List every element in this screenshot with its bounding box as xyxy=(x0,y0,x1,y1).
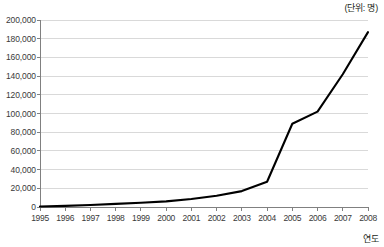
chart-container: (단위: 명) 020,00040,00060,00080,000100,000… xyxy=(0,0,384,247)
x-axis-tick-label: 2004 xyxy=(258,213,276,223)
x-axis-tick-label: 2002 xyxy=(208,213,226,223)
x-axis-tick-label: 1996 xyxy=(56,213,74,223)
x-axis-tick-label: 1997 xyxy=(82,213,100,223)
x-axis-tick-label: 2006 xyxy=(309,213,327,223)
x-axis-tick-label: 1999 xyxy=(132,213,150,223)
x-axis-tick-label: 1995 xyxy=(31,213,49,223)
x-axis-tick-labels: 1995199619971998199920002001200220032004… xyxy=(0,0,384,247)
x-axis-tick-label: 2005 xyxy=(283,213,301,223)
x-axis-tick-label: 1998 xyxy=(107,213,125,223)
x-axis-tick-label: 2007 xyxy=(334,213,352,223)
x-axis-tick-label: 2003 xyxy=(233,213,251,223)
x-axis-title: 연도 xyxy=(363,232,379,245)
x-axis-tick-label: 2001 xyxy=(183,213,201,223)
x-axis-tick-label: 2000 xyxy=(157,213,175,223)
x-axis-tick-label: 2008 xyxy=(359,213,377,223)
